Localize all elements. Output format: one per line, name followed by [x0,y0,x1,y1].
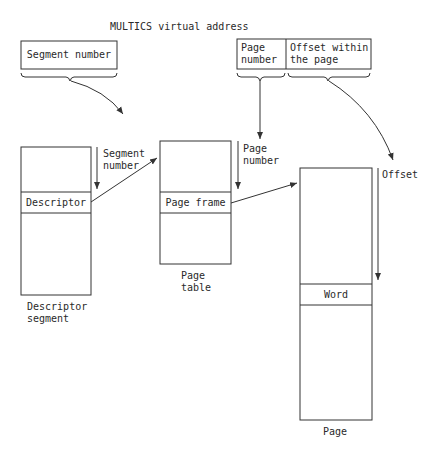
page-table-caption-2: table [181,282,211,294]
diagram-canvas [0,0,434,453]
page-index-label-2: number [243,155,279,167]
segment-index-label-1: Segment [103,148,145,160]
word-entry: Word [300,289,372,301]
page-frame-entry: Page frame [160,197,231,209]
page-number-brace [237,73,285,81]
segment-number-label: Segment number [21,49,117,61]
offset-brace [288,73,370,81]
page-table-caption-1: Page [181,270,205,282]
offset-arrow [329,81,393,160]
page-number-label-2: number [241,54,277,66]
page-frame-to-page-arrow [231,183,297,203]
diagram-title: MULTICS virtual address [110,21,248,33]
page-caption: Page [323,426,347,438]
offset-label-1: Offset within [290,42,368,54]
page-index-label-1: Page [243,143,267,155]
descriptor-segment-caption-2: segment [27,313,69,325]
descriptor-segment-caption-1: Descriptor [27,301,87,313]
offset-index-label: Offset [382,169,418,181]
offset-label-2: the page [290,54,338,66]
segment-index-label-2: number [103,160,139,172]
segment-brace [21,73,117,81]
descriptor-entry: Descriptor [21,197,91,209]
segment-number-arrow [71,81,123,114]
descriptor-segment-table [21,147,91,295]
page-number-label-1: Page [241,42,265,54]
